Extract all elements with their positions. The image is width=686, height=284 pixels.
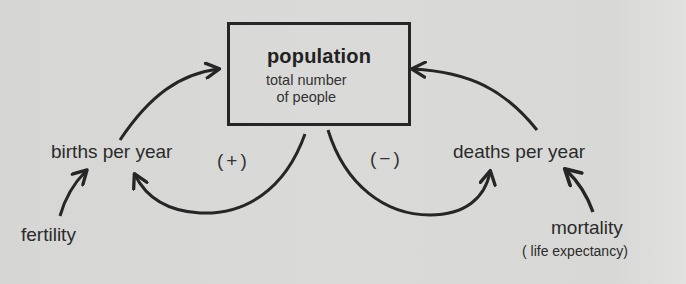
arrow-births-to-population [120,69,218,140]
population-title: population [230,45,408,68]
population-stock-box: population total number of people [227,22,411,126]
diagram-canvas: population total number of people births… [0,0,686,284]
arrow-deaths-to-population [413,69,537,130]
population-subtitle-line1: total number [266,72,347,89]
births-per-year-label: births per year [51,141,172,163]
mortality-label: mortality [551,217,623,239]
population-subtitle-line2: of people [266,89,347,106]
deaths-per-year-label: deaths per year [453,141,585,163]
population-subtitle: total number of people [266,72,347,106]
fertility-label: fertility [21,224,76,246]
life-expectancy-note: ( life expectancy) [522,243,628,259]
negative-loop-sign: (−) [370,148,403,170]
positive-loop-sign: (+) [217,150,250,172]
arrow-mortality-to-deaths [566,170,593,212]
arrow-fertility-to-births [60,171,86,216]
